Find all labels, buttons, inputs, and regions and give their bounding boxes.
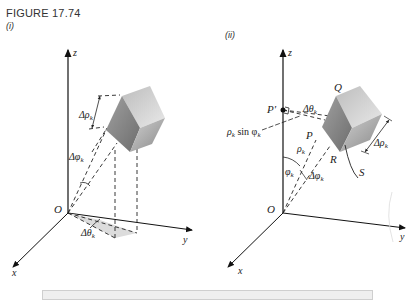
phi-label: φk <box>285 166 295 179</box>
base-wedge <box>68 213 137 238</box>
origin-label: O <box>267 203 275 215</box>
delta-rho-label: Δρk <box>78 109 94 122</box>
rho-label: ρk <box>296 143 306 156</box>
y-axis <box>283 213 405 228</box>
p-prime-label: P′ <box>266 103 277 115</box>
x-axis <box>228 213 283 267</box>
z-label: z <box>287 47 292 58</box>
r-label: R <box>329 153 337 165</box>
q-label: Q <box>334 81 342 93</box>
phi-arc <box>283 157 300 166</box>
origin-label: O <box>54 203 62 215</box>
delta-theta-label: Δθk <box>302 103 318 116</box>
panel-i-diagram: z y x O Δρk Δφk Δθk <box>11 47 192 278</box>
x-axis <box>13 213 68 267</box>
rho-sin-phi-label: ρk sin φk <box>226 126 261 139</box>
s-curve <box>345 145 358 178</box>
delta-rho-label: Δρk <box>373 137 389 150</box>
delta-rho-arrow <box>92 96 100 128</box>
z-label: z <box>72 47 77 58</box>
delta-phi-label: Δφk <box>308 170 324 183</box>
panel-ii-diagram: z y x O P′ P Q R S ρk sin φk Δθk ρk φk Δ… <box>226 47 405 276</box>
x-label: x <box>237 265 243 276</box>
x-label: x <box>11 267 17 278</box>
bottom-bar <box>42 290 373 300</box>
delta-theta-label: Δθk <box>80 227 96 240</box>
s-label: S <box>359 166 365 178</box>
delta-phi-label: Δφk <box>68 151 84 164</box>
y-label: y <box>399 231 405 242</box>
y-label: y <box>182 234 188 245</box>
p-label: P <box>305 129 313 141</box>
p-prime-point <box>281 108 286 113</box>
